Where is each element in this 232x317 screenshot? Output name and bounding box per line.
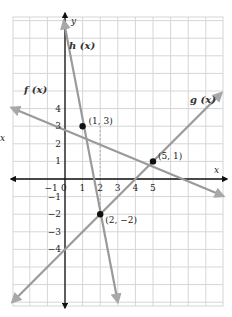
intersection-point	[150, 158, 156, 164]
fx-label: f (x)	[23, 84, 47, 95]
point-label: (1, 3)	[89, 116, 113, 126]
x-tick-label: 3	[115, 183, 121, 193]
x-tick-label: 0	[61, 183, 67, 193]
gx-label: g (x)	[190, 94, 216, 105]
y-tick-label: −4	[48, 244, 62, 254]
intersection-point	[97, 211, 103, 217]
gx-line	[12, 93, 221, 302]
x-tick-label: 5	[150, 183, 156, 193]
y-tick-label: −1	[48, 192, 61, 202]
x-tick-label: 2	[97, 183, 103, 193]
function-graph: −10123454321−1−2−3−4xyxf (x)g (x)h (x)(1…	[0, 0, 232, 317]
y-tick-label: 3	[55, 121, 61, 131]
point-label: (2, −2)	[105, 215, 137, 225]
y-tick-label: 1	[55, 156, 61, 166]
hx-label: h (x)	[69, 40, 95, 51]
x-axis-label: x	[214, 165, 219, 175]
y-tick-label: 4	[55, 104, 61, 114]
y-tick-label: 2	[55, 139, 61, 149]
side-label: x	[0, 133, 5, 143]
intersection-point	[79, 123, 85, 129]
x-tick-label: 4	[132, 183, 138, 193]
grid	[13, 17, 223, 306]
point-label: (5, 1)	[158, 151, 182, 161]
x-tick-label: 1	[80, 183, 86, 193]
y-axis-label: y	[70, 16, 77, 26]
y-tick-label: −2	[48, 209, 61, 219]
y-tick-label: −3	[48, 227, 62, 237]
